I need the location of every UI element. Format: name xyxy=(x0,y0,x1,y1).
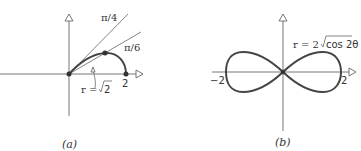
y-axis-arrow-icon xyxy=(279,14,287,21)
x-tick-2-a: 2 xyxy=(122,78,128,89)
caption-b: (b) xyxy=(275,136,291,149)
equation-radicand: cos 2θ xyxy=(326,39,359,50)
endpoint-2 xyxy=(124,72,129,77)
y-axis-arrow-icon xyxy=(65,14,73,21)
radius-label-prefix: r = xyxy=(81,84,97,95)
radius-radicand: 2 xyxy=(104,84,110,95)
caption-a: (a) xyxy=(62,138,77,151)
equation-label: r = 2 cos 2θ xyxy=(293,36,359,50)
equation-prefix: r = 2 xyxy=(293,39,319,50)
x-tick-pos-2: 2 xyxy=(341,75,347,86)
radius-label: r = 2 xyxy=(81,81,112,95)
figure-a: π/4 π/6 2 r = 2 (a) xyxy=(0,12,143,151)
figure-canvas: π/4 π/6 2 r = 2 (a) −2 2 r = 2 cos 2θ (b… xyxy=(0,0,361,151)
label-pi-over-4: π/4 xyxy=(101,12,117,23)
pointer-arrow-icon xyxy=(91,67,95,72)
x-axis-arrow-icon xyxy=(349,68,356,76)
figure-b: −2 2 r = 2 cos 2θ (b) xyxy=(210,14,359,149)
x-axis-arrow-icon xyxy=(136,70,143,78)
label-pi-over-6: π/6 xyxy=(124,42,140,53)
origin-point-b xyxy=(281,70,285,74)
polar-arc-curve xyxy=(69,53,126,74)
x-tick-neg-2: −2 xyxy=(210,75,225,86)
arc-point xyxy=(103,51,108,56)
origin-point-a xyxy=(67,72,72,77)
